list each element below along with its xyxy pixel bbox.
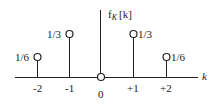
tick-label-minus-2: -2: [33, 82, 42, 94]
y-axis-label: fK[k]: [108, 8, 132, 22]
value-label-k-plus-2: 1/6: [171, 51, 186, 63]
stem-marker-k-plus-2: [163, 54, 170, 61]
value-label-k-minus-2: 1/6: [15, 51, 30, 63]
chart-svg: 1/6 1/3 1/3 1/6 -2 -1 0 +1 +2 fK[k] k: [0, 0, 216, 104]
pmf-stem-chart: 1/6 1/3 1/3 1/6 -2 -1 0 +1 +2 fK[k] k: [0, 0, 216, 104]
stem-marker-k-plus-1: [130, 31, 137, 38]
tick-label-plus-2: +2: [160, 82, 172, 94]
value-label-k-minus-1: 1/3: [47, 28, 62, 40]
stem-marker-k-0: [98, 74, 105, 81]
x-axis-label: k: [202, 70, 208, 82]
tick-label-plus-1: +1: [127, 82, 139, 94]
value-label-k-plus-1: 1/3: [138, 28, 153, 40]
stem-marker-k-minus-2: [34, 54, 41, 61]
tick-label-minus-1: -1: [65, 82, 74, 94]
tick-label-0: 0: [98, 88, 104, 100]
stem-marker-k-minus-1: [66, 31, 73, 38]
